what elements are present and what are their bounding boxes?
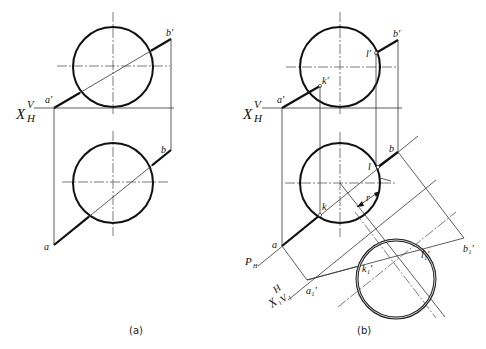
axis-label-x: X [15, 106, 26, 122]
point-k [318, 213, 321, 216]
label-b: b [161, 144, 166, 155]
aux-centerline-1 [338, 212, 456, 307]
label-a-prime: a' [277, 94, 285, 105]
line-a1-k1 [307, 266, 359, 280]
line-ab-front-visible-1 [54, 93, 80, 108]
diagram-canvas: X V H a' b' b a (a) [0, 0, 486, 349]
axis-label-x: X [242, 106, 253, 122]
label-a1-prime: a₁' [306, 285, 317, 296]
line-ab-front-visible-2 [151, 39, 171, 51]
label-a-prime: a' [45, 94, 53, 105]
label-k-prime: k' [322, 75, 329, 86]
caption-a: (a) [129, 325, 143, 336]
line-l-b [378, 152, 398, 167]
radius-arrow-1 [357, 201, 364, 207]
radius-label: r [366, 192, 370, 203]
caption-b: (b) [357, 325, 371, 336]
plane-label-p: P [244, 255, 252, 267]
line-ab-top-visible-1 [54, 217, 89, 245]
figure-a: X V H a' b' b a (a) [15, 12, 174, 336]
point-l [376, 165, 379, 168]
label-b: b [389, 143, 394, 154]
figure-b: r X V H a' k' l' b' b l k a P H a₁' k₁' … [242, 12, 474, 336]
aux-projector-a [282, 246, 307, 280]
label-l-prime: l' [366, 48, 372, 59]
aux-axis-label: X 1 H V 1 [260, 280, 293, 313]
axis-label-h: H [253, 112, 263, 124]
label-a: a [44, 241, 49, 252]
label-b1-prime: b₁' [463, 243, 474, 254]
label-l: l [368, 161, 371, 172]
label-a: a [272, 239, 277, 250]
plane-label-h: H [252, 263, 258, 269]
axis-label-v: V [27, 98, 35, 110]
line-l-prime-b-prime [376, 40, 398, 53]
label-k: k [322, 201, 327, 212]
aux-projector-b [398, 152, 464, 238]
aux-axis-x1 [288, 180, 436, 300]
radius-tick [380, 178, 391, 181]
label-b-prime: b' [393, 28, 401, 39]
label-k1-prime: k₁' [362, 263, 373, 274]
axis-label-v: V [254, 98, 262, 110]
line-a-k [282, 215, 320, 246]
label-l1-prime: l₁' [421, 249, 430, 260]
axis-label-h: H [26, 112, 36, 124]
label-b-prime: b' [166, 27, 174, 38]
